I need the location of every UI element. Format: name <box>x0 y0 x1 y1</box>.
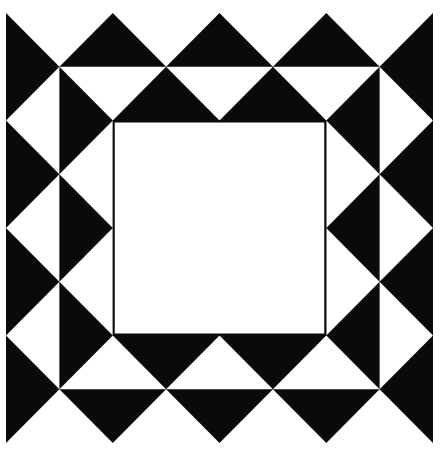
inner-white-square <box>114 122 326 335</box>
quilt-pattern-figure <box>0 0 443 456</box>
